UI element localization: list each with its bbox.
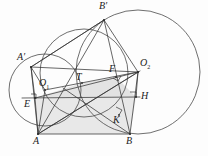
shade-lower-quad [35, 97, 136, 134]
label-point-o2: O2 [140, 58, 150, 70]
label-point-b-prime: B′ [99, 1, 107, 11]
label-point-H: H [141, 91, 148, 101]
dot-F [115, 76, 117, 78]
dot-Aprime [30, 66, 32, 68]
seg-tangent-upper [31, 67, 138, 72]
label-point-A: A [33, 136, 39, 146]
dot-T [81, 82, 83, 84]
dot-H [135, 96, 137, 98]
dot-Bprime [103, 19, 105, 21]
label-point-T: T [76, 72, 82, 82]
label-o1-sub: 1 [46, 84, 49, 90]
label-point-B: B [126, 136, 132, 146]
figure-canvas [0, 0, 208, 156]
seg-Aprime-tangent-ext [31, 20, 104, 67]
label-point-K: K [113, 115, 120, 125]
label-point-a-prime: A′ [17, 52, 25, 62]
label-o2-sub: 2 [147, 64, 150, 70]
geometry-figure: A B A′ B′ O1 O2 T E F H K [0, 0, 208, 156]
seg-Aprime-E [31, 67, 35, 98]
label-point-E: E [24, 99, 30, 109]
label-point-o1: O1 [39, 78, 49, 90]
dot-E [34, 97, 36, 99]
dot-O2 [137, 71, 139, 73]
label-point-F: F [109, 64, 115, 74]
